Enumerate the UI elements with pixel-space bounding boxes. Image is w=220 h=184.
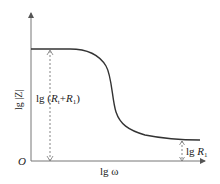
label-suffix: ) xyxy=(76,92,80,104)
x-axis-label: lg ω xyxy=(100,166,119,177)
label-subscript: 1 xyxy=(204,151,208,159)
label-prefix: lg ( xyxy=(36,92,51,104)
label-r-symbol: R xyxy=(51,92,58,104)
low-frequency-impedance-label: lg (Rt+R1) xyxy=(36,93,80,106)
high-frequency-impedance-label: lg R1 xyxy=(186,146,208,159)
bode-magnitude-diagram: lg |Z| lg (Rt+R1) lg R1 lg ω O xyxy=(0,0,220,184)
origin-label: O xyxy=(18,156,26,167)
label-prefix: lg xyxy=(186,145,197,157)
y-axis-label: lg |Z| xyxy=(14,90,24,110)
label-r-symbol: R xyxy=(66,92,73,104)
